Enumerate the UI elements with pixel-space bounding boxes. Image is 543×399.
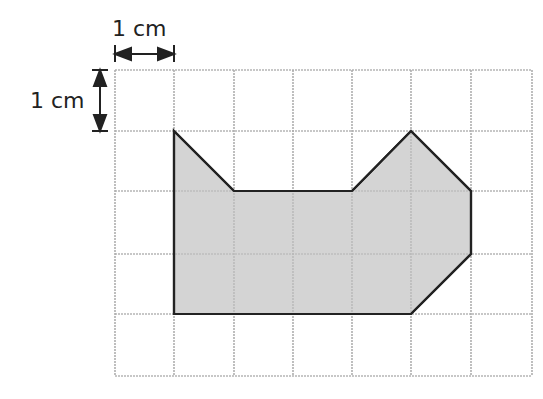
horizontal-scale-label: 1 cm — [112, 16, 167, 41]
grid-diagram — [0, 0, 543, 399]
shaded-shape — [174, 131, 471, 314]
vertical-scale-label: 1 cm — [30, 88, 85, 113]
vertical-scale-arrow — [92, 70, 108, 131]
horizontal-scale-arrow — [115, 45, 174, 62]
